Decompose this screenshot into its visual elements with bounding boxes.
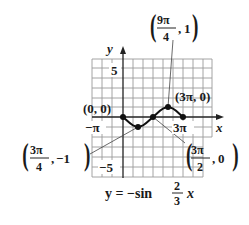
svg-text:1: 1 — [184, 21, 191, 36]
svg-text:−1: −1 — [56, 151, 70, 166]
svg-text:2: 2 — [174, 179, 180, 193]
svg-text:y = −sin: y = −sin — [105, 186, 152, 201]
svg-text:4: 4 — [163, 30, 169, 44]
label-9pi4-1: ( 9π 4 , 1 ) — [150, 7, 198, 44]
svg-text:0: 0 — [218, 151, 225, 166]
svg-text:,: , — [51, 151, 54, 166]
svg-text:x: x — [186, 186, 194, 201]
point-origin — [120, 114, 126, 120]
leader-9pi4 — [168, 40, 173, 107]
y-axis-arrow-icon — [120, 46, 126, 54]
svg-text:): ) — [232, 136, 238, 172]
svg-text:): ) — [192, 7, 198, 43]
svg-text:3π: 3π — [191, 143, 204, 157]
x-tick-3pi: 3π — [173, 120, 187, 135]
graph-svg: y x 5 −5 −π 3π (0, 0) (3π, 0) ( 3π 4 , −… — [0, 0, 249, 225]
equation-label: y = −sin 2 3 x — [105, 179, 194, 208]
x-axis-label: x — [215, 120, 223, 135]
label-3pi4-neg1: ( 3π 4 , −1 ) — [22, 136, 90, 174]
svg-text:): ) — [84, 136, 90, 172]
point-3pi2 — [150, 114, 156, 120]
y-tick-neg5: −5 — [99, 160, 113, 175]
svg-text:3π: 3π — [30, 143, 43, 157]
x-tick-neg-pi: −π — [85, 120, 100, 135]
label-origin: (0, 0) — [83, 101, 111, 116]
point-3pi4 — [135, 124, 141, 130]
svg-text:3: 3 — [174, 194, 180, 208]
sine-graph-figure: y x 5 −5 −π 3π (0, 0) (3π, 0) ( 3π 4 , −… — [0, 0, 249, 225]
label-3pi-0: (3π, 0) — [175, 89, 210, 104]
svg-text:4: 4 — [36, 160, 42, 174]
y-axis-label: y — [105, 41, 113, 56]
svg-text:2: 2 — [197, 160, 203, 174]
svg-text:(: ( — [150, 7, 156, 43]
label-3pi2-0: ( 3π 2 , 0 ) — [186, 136, 239, 174]
svg-text:(: ( — [22, 136, 28, 172]
y-tick-5: 5 — [111, 63, 118, 78]
svg-text:,: , — [212, 151, 215, 166]
svg-text:,: , — [178, 21, 181, 36]
svg-text:9π: 9π — [157, 13, 170, 27]
point-9pi4 — [165, 104, 171, 110]
